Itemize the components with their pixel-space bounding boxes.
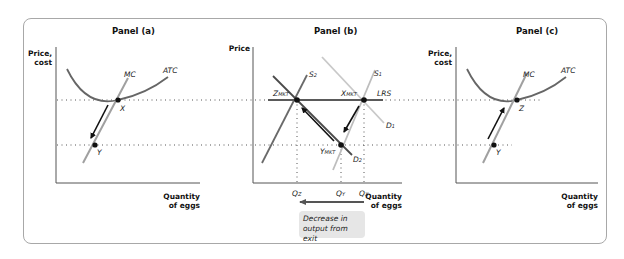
panel-a-mc-label: MC — [124, 70, 136, 79]
panel-b-point-z-label: ZMKT — [273, 89, 289, 99]
panel-a-title: Panel (a) — [112, 27, 155, 36]
panel-a-graph — [56, 47, 200, 183]
panel-a-y-axis-label: Price, cost — [28, 49, 52, 67]
panel-b-qz-label: QZ — [292, 189, 301, 199]
panel-b-d2-label: D2 — [353, 155, 362, 165]
panel-b-y-axis-label: Price — [228, 44, 250, 53]
exit-annotation-box: Decrease in output from exit — [299, 211, 365, 238]
panel-b-s2-label: S2 — [309, 70, 317, 80]
panel-b-d1-label: D1 — [386, 121, 395, 131]
annotation-line1: Decrease in — [303, 214, 361, 224]
panel-c-atc-label: ATC — [561, 66, 575, 75]
panel-c-point-z — [514, 97, 519, 102]
panel-b-qy-label: QY — [336, 189, 345, 199]
y-axis-label-line2: cost — [28, 58, 52, 67]
panel-b-s1-label: S1 — [374, 69, 382, 79]
panel-b-point-x-label: XMKT — [341, 89, 357, 99]
panel-a-point-x — [115, 97, 120, 102]
panel-a-point-y-label: Y — [97, 148, 102, 157]
panel-a-point-x-label: X — [120, 104, 125, 113]
panel-b-point-x — [361, 97, 367, 103]
y-axis-label-line2: cost — [428, 58, 452, 67]
panel-c-title: Panel (c) — [516, 27, 558, 36]
panel-a-mc-curve — [83, 78, 128, 163]
panel-b-point-z — [294, 97, 300, 103]
panel-a-x-axis-label: Quantity of eggs — [160, 192, 200, 210]
annotation-line2: output from exit — [303, 224, 361, 244]
panel-c-mc-curve — [483, 73, 527, 163]
x-axis-label-line2: of eggs — [558, 201, 598, 210]
panel-c-point-y-label: Y — [496, 148, 501, 157]
x-axis-label-line1: Quantity — [160, 192, 200, 201]
panel-b-lrs-label: LRS — [377, 89, 391, 98]
panel-b-title: Panel (b) — [314, 27, 357, 36]
panel-c-y-axis-label: Price, cost — [428, 49, 452, 67]
y-axis-label-line1: Price, — [428, 49, 452, 58]
panel-c-graph — [456, 47, 598, 183]
x-axis-label-line2: of eggs — [362, 201, 402, 210]
panel-a-atc-label: ATC — [163, 66, 177, 75]
price-guides — [57, 100, 540, 145]
y-axis-label-line1: Price, — [28, 49, 52, 58]
panel-c-point-z-label: Z — [519, 104, 524, 113]
panel-b-point-y-label: YMKT — [320, 147, 335, 157]
panel-c-x-axis-label: Quantity of eggs — [558, 192, 598, 210]
x-axis-label-line2: of eggs — [160, 201, 200, 210]
panel-c-point-y — [491, 142, 496, 147]
panel-c-mc-label: MC — [523, 70, 535, 79]
panel-b-arrow-y-to-z — [302, 108, 334, 141]
panel-b-point-y — [338, 142, 344, 148]
panel-a-point-y — [92, 142, 97, 147]
x-axis-label-line1: Quantity — [558, 192, 598, 201]
panel-b-qx-label: QX — [359, 189, 368, 199]
